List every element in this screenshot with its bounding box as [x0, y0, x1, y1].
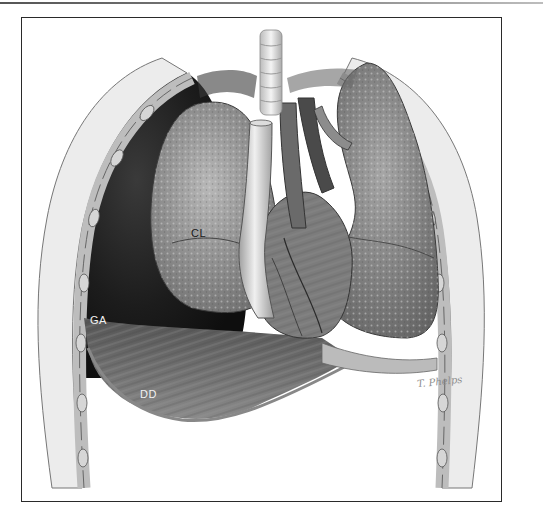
label-collapsed-lung: CL	[191, 227, 206, 239]
page-top-rule	[0, 2, 543, 4]
trachea	[260, 30, 282, 115]
thorax-illustration	[22, 18, 501, 501]
illustration-frame: CL GA DD T. Phelps	[21, 17, 502, 502]
label-diaphragm: DD	[140, 388, 157, 400]
label-gas: GA	[90, 314, 107, 326]
